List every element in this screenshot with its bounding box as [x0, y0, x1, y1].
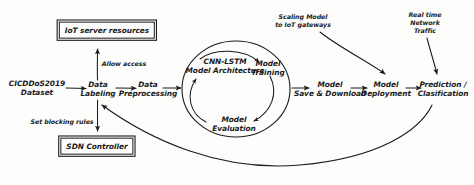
- edge-label-allow-access: Allow access: [102, 60, 146, 68]
- edge-prediction-feedback-to-labeling: [102, 105, 432, 166]
- cycle-arc-evaluation-to-architecture: [190, 79, 206, 122]
- node-model-evaluation[interactable]: Model Evaluation: [212, 115, 256, 133]
- edge-traffic-to-prediction: [427, 38, 437, 74]
- edge-label-real-time-network-traffic: Real time Network Traffic: [401, 11, 450, 35]
- cycle-arc-training-to-evaluation: [254, 76, 274, 121]
- edge-label-scaling-model-to-iot-gateways: Scaling Model to IoT gateways: [275, 13, 331, 29]
- box-iot-server-resources[interactable]: IoT server resources: [59, 22, 155, 39]
- edge-label-set-blocking-rules: Set blocking rules: [30, 118, 93, 126]
- node-data-preprocessing[interactable]: Data Preprocessing: [119, 80, 178, 98]
- edge-scaling-to-deployment: [320, 32, 385, 74]
- node-model-training[interactable]: Model Training: [251, 59, 284, 77]
- node-prediction-classification[interactable]: Prediction / Clasification: [418, 80, 469, 98]
- node-model-save-download[interactable]: Model Save & Download: [294, 80, 366, 98]
- node-dataset[interactable]: CICDDoS2019 Dataset: [9, 79, 65, 97]
- node-model-deployment[interactable]: Model Deployment: [361, 80, 411, 98]
- node-data-labeling[interactable]: Data Labeling: [80, 80, 115, 98]
- diagram-canvas: IoT server resources SDN Controller CICD…: [0, 0, 474, 185]
- box-sdn-controller[interactable]: SDN Controller: [60, 138, 133, 155]
